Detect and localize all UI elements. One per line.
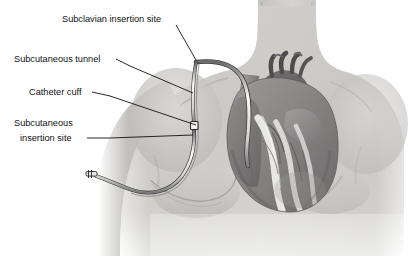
illustration-canvas: Subclavian insertion site Subcutaneous t…	[0, 0, 411, 256]
label-subcutaneous-tunnel: Subcutaneous tunnel	[14, 54, 100, 64]
catheter-cuff-bead	[191, 122, 199, 130]
left-breast-shade	[152, 166, 240, 218]
label-subclavian-insertion-site: Subclavian insertion site	[62, 14, 161, 24]
label-subcutaneous-insertion-site-line2: insertion site	[20, 133, 72, 143]
label-subcutaneous-insertion-site-line1: Subcutaneous	[14, 118, 73, 128]
label-catheter-cuff: Catheter cuff	[29, 87, 82, 97]
anatomy-illustration: Subclavian insertion site Subcutaneous t…	[0, 0, 411, 256]
left-shoulder	[130, 68, 222, 172]
lower-fade	[110, 214, 410, 256]
